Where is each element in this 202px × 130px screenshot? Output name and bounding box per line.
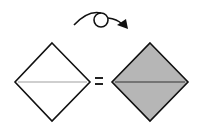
- equals-sign: [95, 77, 103, 85]
- origami-diagram: Turn the paper over: [0, 0, 202, 130]
- turn-over-icon: [74, 13, 128, 30]
- paper-after: [112, 43, 188, 121]
- paper-before: [15, 43, 90, 121]
